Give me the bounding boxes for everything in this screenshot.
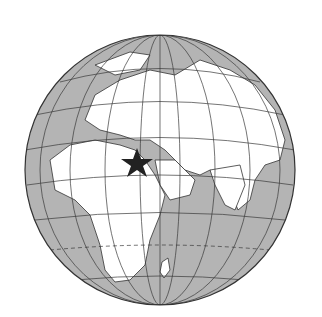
globe-map: [0, 0, 322, 317]
